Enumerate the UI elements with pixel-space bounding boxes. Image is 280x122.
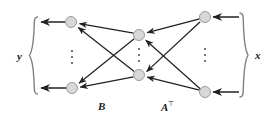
edge-mid-bottom-to-y-top bbox=[78, 27, 134, 71]
y-node-bottom bbox=[67, 83, 78, 94]
edge-group-B bbox=[78, 24, 134, 88]
matrix-label-B: B bbox=[98, 101, 105, 112]
x-node-top bbox=[200, 12, 211, 23]
brace-left bbox=[30, 17, 38, 94]
edge-mid-top-to-y-top bbox=[80, 24, 134, 34]
mid-node-top bbox=[134, 30, 145, 41]
bipartite-network-figure: y x B A⊤ bbox=[0, 0, 280, 122]
input-arrow-group bbox=[213, 17, 239, 92]
ellipsis-mid bbox=[138, 48, 140, 62]
group-label-y: y bbox=[17, 51, 22, 62]
ellipsis-left bbox=[71, 50, 73, 64]
brace-right bbox=[240, 13, 248, 97]
matrix-label-A-transpose: A⊤ bbox=[161, 101, 174, 113]
group-label-x: x bbox=[255, 50, 261, 61]
edge-group-A-transpose bbox=[146, 19, 201, 90]
ellipsis-group bbox=[71, 48, 206, 64]
x-node-bottom bbox=[200, 87, 211, 98]
edge-mid-top-to-y-bottom bbox=[79, 39, 134, 84]
mid-node-bottom bbox=[134, 70, 145, 81]
output-arrow-group bbox=[41, 22, 66, 88]
edge-x-bottom-to-mid-bottom bbox=[147, 77, 199, 90]
diagram-canvas bbox=[0, 0, 280, 122]
edge-x-top-to-mid-top bbox=[147, 19, 199, 33]
ellipsis-right bbox=[204, 48, 206, 62]
y-node-top bbox=[66, 17, 77, 28]
edge-mid-bottom-to-y-bottom bbox=[80, 77, 133, 87]
matrix-label-transpose-symbol: ⊤ bbox=[168, 100, 174, 108]
